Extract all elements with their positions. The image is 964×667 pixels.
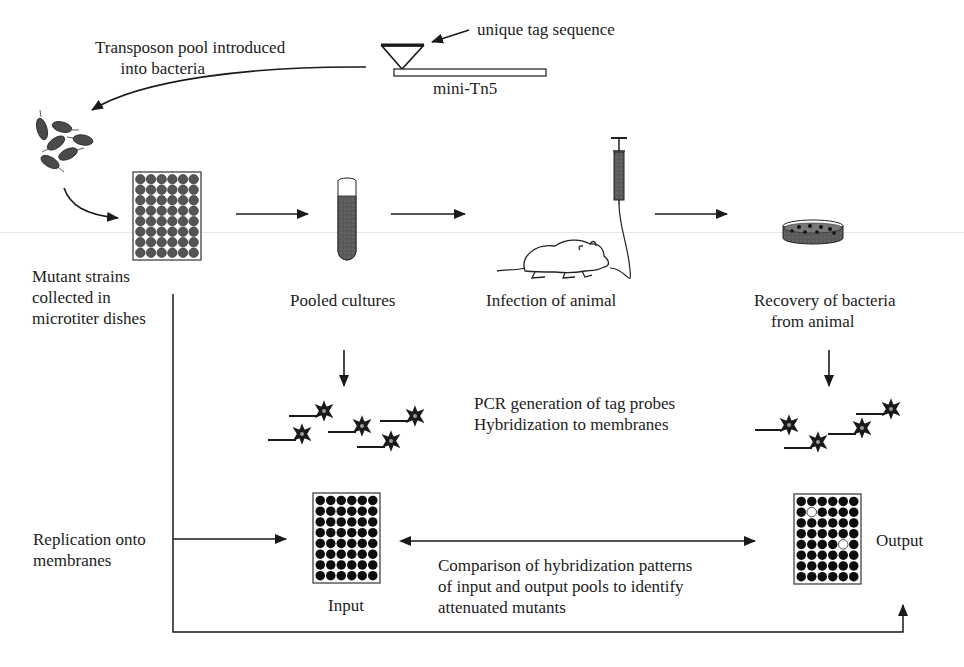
well [839, 550, 849, 560]
well [358, 539, 368, 549]
well [178, 185, 188, 195]
well [337, 517, 347, 527]
well [178, 196, 188, 206]
tag-arrow [432, 30, 469, 42]
well [797, 529, 807, 539]
well [368, 517, 378, 527]
well [358, 549, 368, 559]
well [326, 539, 336, 549]
well [168, 185, 178, 195]
well [157, 217, 167, 227]
probe-group-input [268, 403, 422, 449]
well [189, 175, 199, 185]
well [146, 185, 156, 195]
label-recovery: Recovery of bacteria from animal [754, 290, 896, 332]
well [157, 175, 167, 185]
well [849, 529, 859, 539]
well [189, 206, 199, 216]
well [839, 572, 849, 582]
well [189, 227, 199, 237]
well [136, 206, 146, 216]
empty-well [839, 540, 849, 550]
well [839, 507, 849, 517]
well [136, 175, 146, 185]
well [828, 540, 838, 550]
well [168, 196, 178, 206]
test-tube-icon [338, 178, 356, 260]
well [807, 572, 817, 582]
well [168, 238, 178, 248]
well [368, 496, 378, 506]
well [316, 549, 326, 559]
well [797, 507, 807, 517]
well [797, 561, 807, 571]
well [189, 196, 199, 206]
empty-well [807, 507, 817, 517]
well [358, 560, 368, 570]
well [347, 506, 357, 516]
well [337, 549, 347, 559]
well [347, 496, 357, 506]
well [818, 561, 828, 571]
well [358, 506, 368, 516]
well [849, 518, 859, 528]
well [828, 529, 838, 539]
well [326, 517, 336, 527]
well [839, 529, 849, 539]
label-unique-tag: unique tag sequence [477, 19, 615, 40]
well [337, 560, 347, 570]
well [189, 185, 199, 195]
bacteria-icon [34, 110, 93, 172]
transposon-icon [381, 45, 546, 76]
well [849, 550, 859, 560]
label-infection: Infection of animal [486, 290, 616, 311]
well [189, 248, 199, 258]
label-mutant-strains: Mutant strains collected in microtiter d… [32, 266, 146, 329]
label-mini-tn5: mini-Tn5 [433, 78, 497, 99]
well [178, 238, 188, 248]
well [136, 248, 146, 258]
well [316, 528, 326, 538]
well [347, 517, 357, 527]
well [368, 549, 378, 559]
well [368, 571, 378, 581]
well [368, 560, 378, 570]
well [347, 539, 357, 549]
well [178, 217, 188, 227]
well [828, 561, 838, 571]
well [178, 248, 188, 258]
well [818, 518, 828, 528]
membrane-icon-input [313, 493, 380, 583]
well [797, 550, 807, 560]
well [828, 497, 838, 507]
well [168, 248, 178, 258]
well [807, 518, 817, 528]
well [326, 528, 336, 538]
well [136, 196, 146, 206]
well [347, 528, 357, 538]
well [146, 227, 156, 237]
well [368, 528, 378, 538]
well [807, 497, 817, 507]
well [828, 507, 838, 517]
well [347, 549, 357, 559]
label-input: Input [328, 595, 364, 616]
well [337, 528, 347, 538]
well [807, 529, 817, 539]
well [136, 227, 146, 237]
probe-group-output [755, 401, 898, 450]
well [146, 206, 156, 216]
well [797, 572, 807, 582]
well [146, 238, 156, 248]
well [326, 506, 336, 516]
well [326, 571, 336, 581]
well [189, 217, 199, 227]
syringe-icon [610, 138, 630, 278]
well [358, 528, 368, 538]
well [316, 506, 326, 516]
well [316, 571, 326, 581]
well [337, 571, 347, 581]
well [818, 550, 828, 560]
well [157, 185, 167, 195]
well [797, 518, 807, 528]
